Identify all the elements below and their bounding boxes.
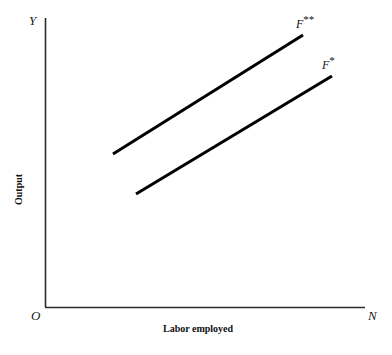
- x-axis-title: Labor employed: [163, 324, 233, 334]
- curve-label-f-double-star: F**: [296, 14, 314, 30]
- x-axis-endpoint-label: N: [368, 309, 377, 322]
- curve-f-star: [136, 76, 332, 194]
- curve-label-f-star-asterisks: *: [329, 54, 335, 66]
- y-axis-title-text: Output: [14, 145, 24, 205]
- production-function-figure: Y O N Output Labor employed F** F*: [0, 0, 392, 355]
- curve-f-double-star: [113, 35, 303, 154]
- y-axis-title: Output: [0, 85, 10, 145]
- y-axis-endpoint-label: Y: [29, 14, 36, 27]
- curve-label-f-star: F*: [322, 55, 335, 71]
- curve-label-f-double-star-asterisks: **: [303, 13, 314, 25]
- origin-label: O: [31, 309, 40, 322]
